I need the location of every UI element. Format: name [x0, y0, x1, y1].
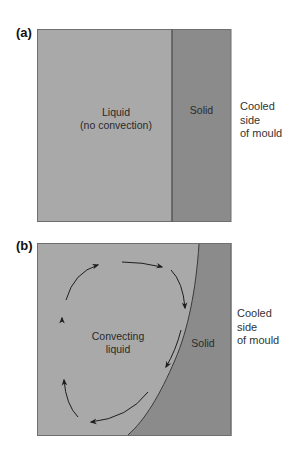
- liquid-label-a-line1: Liquid: [66, 106, 166, 119]
- solid-label-b: Solid: [187, 337, 219, 350]
- cooled-side-a-line1: Cooled: [240, 100, 282, 114]
- cooled-side-label-a: Cooled side of mould: [240, 100, 282, 141]
- liquid-label-b-line2: liquid: [78, 343, 158, 356]
- cooled-side-b-line1: Cooled: [237, 307, 279, 321]
- diagram-graphics: [0, 0, 295, 457]
- cooled-side-b-line3: of mould: [237, 334, 279, 348]
- cooled-side-a-line3: of mould: [240, 127, 282, 141]
- liquid-label-b-line1: Convecting: [78, 330, 158, 343]
- liquid-label-a-line2: (no convection): [66, 119, 166, 132]
- solid-label-a: Solid: [172, 104, 231, 117]
- liquid-label-b: Convecting liquid: [78, 330, 158, 356]
- cooled-side-b-line2: side: [237, 321, 279, 335]
- cooled-side-a-line2: side: [240, 114, 282, 128]
- solid-region-a: [172, 30, 231, 222]
- panel-a-label: (a): [16, 25, 32, 40]
- solidification-figure: (a) Liquid (no convection) Solid Cooled …: [0, 0, 295, 457]
- liquid-label-a: Liquid (no convection): [66, 106, 166, 132]
- panel-b-label: (b): [16, 238, 33, 253]
- cooled-side-label-b: Cooled side of mould: [237, 307, 279, 348]
